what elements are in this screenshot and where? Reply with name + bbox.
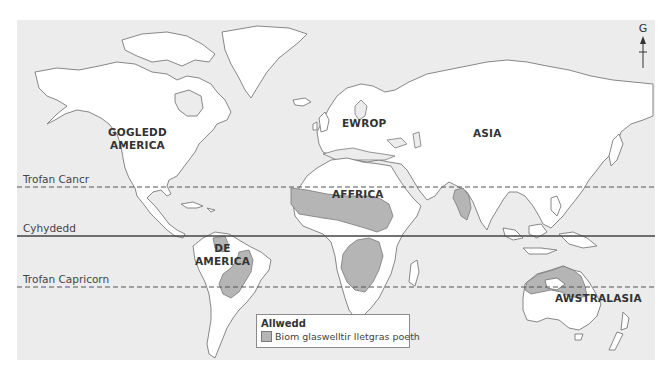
equator-label: Cyhydedd [23, 222, 76, 234]
label-asia: ASIA [473, 127, 502, 140]
british-isles [313, 112, 329, 132]
label-africa: AFFRICA [332, 188, 384, 201]
north-arrow-icon [636, 22, 650, 68]
label-south-america-line1: DE [195, 242, 250, 255]
label-south-america-line2: AMERICA [195, 255, 250, 268]
legend-item: Biom glaswelltir lletgras poeth [261, 331, 405, 342]
indonesia [503, 224, 597, 254]
label-north-america: GOGLEDD AMERICA [108, 126, 167, 152]
tropic-of-cancer-label: Trofan Cancr [23, 173, 89, 185]
label-north-america-line2: AMERICA [108, 139, 167, 152]
label-europe: EWROP [342, 117, 386, 130]
legend-swatch [261, 331, 272, 342]
tropic-of-capricorn-label: Trofan Capricorn [23, 273, 109, 285]
madagascar [409, 260, 419, 286]
north-arrow: G [636, 22, 650, 68]
africa [293, 158, 421, 318]
arctic-islands [122, 32, 215, 66]
label-australasia: AWSTRALASIA [555, 292, 642, 305]
greenland [222, 26, 307, 98]
new-zealand [609, 312, 629, 350]
tasmania [575, 334, 583, 340]
iceland [293, 98, 311, 106]
legend-item-label: Biom glaswelltir lletgras poeth [275, 331, 420, 342]
legend-title: Allwedd [261, 318, 405, 329]
label-south-america: DE AMERICA [195, 242, 250, 268]
label-north-america-line1: GOGLEDD [108, 126, 167, 139]
caribbean-islands [181, 202, 215, 212]
legend: Allwedd Biom glaswelltir lletgras poeth [256, 314, 410, 348]
